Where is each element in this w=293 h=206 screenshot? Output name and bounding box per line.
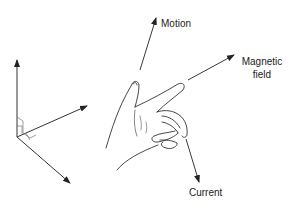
force-arrows — [140, 18, 234, 182]
magnetic-field-arrow — [188, 55, 234, 80]
right-angle-marks — [17, 117, 36, 140]
magnetic-field-label-line2: field — [237, 69, 287, 80]
left-hand-illustration — [106, 81, 187, 170]
diagonal-axis-arrow — [17, 137, 70, 183]
magnetic-field-label-line1: Magnetic — [237, 56, 287, 67]
motion-label: Motion — [161, 18, 191, 29]
current-label: Current — [189, 187, 222, 198]
current-arrow — [186, 139, 199, 182]
diagram-canvas — [0, 0, 293, 206]
reference-axes — [17, 60, 87, 183]
motion-arrow — [140, 18, 156, 70]
right-axis-arrow — [17, 106, 87, 137]
